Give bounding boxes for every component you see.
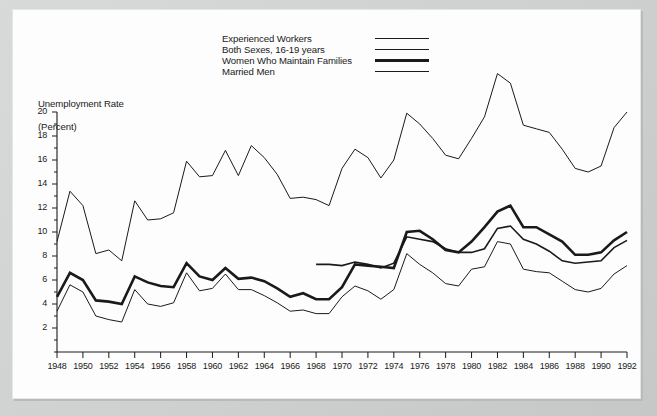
series-line — [316, 226, 627, 268]
legend-swatch-experienced-workers — [375, 33, 429, 44]
legend-swatch-bar — [375, 38, 429, 39]
legend-label: Both Sexes, 16-19 years — [222, 44, 325, 55]
y-tick-label: 6 — [31, 274, 47, 284]
legend-label: Women Who Maintain Families — [222, 55, 352, 66]
y-tick-label: 20 — [31, 106, 47, 116]
series-line — [57, 74, 627, 261]
series-line — [57, 206, 627, 304]
series-line — [57, 242, 627, 322]
y-tick-label: 8 — [31, 250, 47, 260]
figure-frame: Unemployment Rate (Percent) Experienced … — [0, 0, 657, 416]
y-axis-title-line1: Unemployment Rate — [38, 98, 124, 110]
legend-swatch-both-sexes-16-19 — [375, 44, 429, 55]
x-tick-label: 1992 — [612, 361, 642, 371]
y-tick-label: 18 — [31, 130, 47, 140]
legend-swatch-bar — [375, 59, 429, 62]
legend-swatch-bar — [375, 49, 429, 50]
legend-swatch-women-maintain-families — [375, 55, 429, 66]
y-tick-label: 12 — [31, 202, 47, 212]
y-tick-label: 2 — [31, 322, 47, 332]
legend-swatch-bar — [375, 71, 429, 73]
y-tick-label: 16 — [31, 154, 47, 164]
y-tick-label: 4 — [31, 298, 47, 308]
y-tick-label: 10 — [31, 226, 47, 236]
y-axis-title: Unemployment Rate (Percent) — [38, 86, 124, 144]
legend-swatch-married-men — [375, 66, 429, 77]
legend-label: Married Men — [222, 66, 275, 77]
y-axis-title-line2: (Percent) — [38, 121, 124, 133]
legend-label: Experienced Workers — [222, 33, 312, 44]
y-tick-label: 14 — [31, 178, 47, 188]
